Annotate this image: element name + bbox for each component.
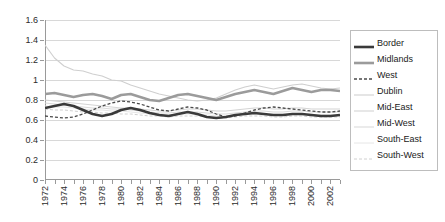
x-tick-mark: [55, 180, 56, 184]
x-tick-label: 1978: [98, 186, 107, 206]
x-tick-mark: [159, 180, 160, 184]
y-tick-label: 0.4: [25, 136, 38, 145]
x-tick-mark: [273, 180, 274, 184]
y-tick-label: 1.6: [25, 16, 38, 25]
x-tick-mark: [74, 180, 75, 184]
x-tick-mark: [216, 180, 217, 184]
x-tick-label: 1986: [174, 186, 183, 206]
x-tick-mark: [340, 180, 341, 184]
legend-item-mid-west[interactable]: Mid-West: [354, 115, 434, 131]
x-tick-label: 1994: [250, 186, 259, 206]
x-tick-label: 2000: [307, 186, 316, 206]
x-tick-mark: [235, 180, 236, 184]
legend-label: Mid-East: [377, 103, 413, 112]
legend-item-mid-east[interactable]: Mid-East: [354, 99, 434, 115]
y-tick-label: 1.2: [25, 56, 38, 65]
legend-swatch-icon: [354, 134, 374, 144]
x-tick-mark: [245, 180, 246, 184]
legend-swatch-icon: [354, 38, 374, 48]
x-tick-mark: [93, 180, 94, 184]
x-tick-label: 2002: [326, 186, 335, 206]
y-tick-mark: [40, 160, 44, 161]
x-tick-mark: [197, 180, 198, 184]
chart-legend: BorderMidlandsWestDublinMid-EastMid-West…: [350, 30, 438, 171]
legend-swatch-icon: [354, 150, 374, 160]
legend-item-midlands[interactable]: Midlands: [354, 51, 434, 67]
x-tick-label: 1984: [155, 186, 164, 206]
y-tick-label: 0: [33, 176, 38, 185]
x-tick-mark: [292, 180, 293, 184]
x-tick-mark: [131, 180, 132, 184]
legend-swatch-icon: [354, 54, 374, 64]
y-tick-mark: [40, 120, 44, 121]
x-tick-label: 1990: [212, 186, 221, 206]
y-tick-mark: [40, 140, 44, 141]
x-tick-label: 1988: [193, 186, 202, 206]
x-tick-label: 1992: [231, 186, 240, 206]
legend-swatch-icon: [354, 70, 374, 80]
x-tick-mark: [169, 180, 170, 184]
y-tick-mark: [40, 80, 44, 81]
x-tick-mark: [83, 180, 84, 184]
x-tick-label: 1976: [79, 186, 88, 206]
x-tick-label: 1996: [269, 186, 278, 206]
legend-item-south-west[interactable]: South-West: [354, 147, 434, 163]
x-tick-mark: [226, 180, 227, 184]
x-tick-mark: [264, 180, 265, 184]
x-tick-mark: [321, 180, 322, 184]
x-tick-mark: [121, 180, 122, 184]
y-tick-mark: [40, 60, 44, 61]
legend-item-south-east[interactable]: South-East: [354, 131, 434, 147]
x-tick-label: 1998: [288, 186, 297, 206]
x-tick-mark: [64, 180, 65, 184]
y-tick-mark: [40, 100, 44, 101]
x-tick-mark: [45, 180, 46, 184]
x-tick-mark: [302, 180, 303, 184]
legend-swatch-icon: [354, 86, 374, 96]
x-tick-label: 1974: [60, 186, 69, 206]
legend-label: South-West: [377, 151, 424, 160]
y-tick-label: 0.2: [25, 156, 38, 165]
x-tick-mark: [283, 180, 284, 184]
x-tick-mark: [178, 180, 179, 184]
legend-label: Dublin: [377, 87, 403, 96]
legend-label: Midlands: [377, 55, 413, 64]
y-tick-label: 0.6: [25, 116, 38, 125]
x-tick-mark: [112, 180, 113, 184]
x-tick-mark: [330, 180, 331, 184]
x-tick-mark: [150, 180, 151, 184]
legend-swatch-icon: [354, 102, 374, 112]
y-tick-mark: [40, 180, 44, 181]
y-tick-label: 1.4: [25, 36, 38, 45]
x-axis: 1972197419761978198019821984198619881990…: [45, 180, 340, 222]
y-tick-mark: [40, 40, 44, 41]
legend-swatch-icon: [354, 118, 374, 128]
x-tick-label: 1982: [136, 186, 145, 206]
legend-item-border[interactable]: Border: [354, 35, 434, 51]
x-tick-mark: [254, 180, 255, 184]
x-tick-mark: [102, 180, 103, 184]
series-line-midlands: [45, 88, 340, 101]
legend-label: West: [377, 71, 397, 80]
y-tick-mark: [40, 20, 44, 21]
y-axis: 00.20.40.60.811.21.41.6: [0, 20, 42, 180]
legend-item-dublin[interactable]: Dublin: [354, 83, 434, 99]
x-tick-mark: [207, 180, 208, 184]
legend-label: South-East: [377, 135, 422, 144]
y-tick-label: 0.8: [25, 96, 38, 105]
x-tick-mark: [311, 180, 312, 184]
x-tick-mark: [188, 180, 189, 184]
legend-item-west[interactable]: West: [354, 67, 434, 83]
legend-label: Mid-West: [377, 119, 415, 128]
chart-container: 00.20.40.60.811.21.41.6 1972197419761978…: [0, 0, 445, 222]
x-tick-mark: [140, 180, 141, 184]
series-layer: [45, 20, 340, 180]
x-tick-label: 1980: [117, 186, 126, 206]
y-tick-label: 1: [33, 76, 38, 85]
legend-label: Border: [377, 39, 404, 48]
series-line-dublin: [45, 45, 340, 101]
x-tick-label: 1972: [41, 186, 50, 206]
